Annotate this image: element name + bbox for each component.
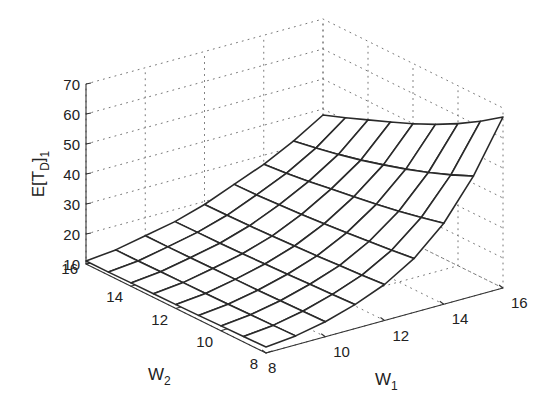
x-axis-label: W1	[375, 370, 398, 393]
y-axis-label: W2	[148, 365, 171, 388]
y-tick-label: 14	[106, 288, 123, 305]
surface-plot: 10203040506070810121416810121416 E[TD]1 …	[0, 0, 553, 407]
y-tick-label: 8	[250, 355, 258, 372]
x-tick-label: 14	[452, 310, 469, 327]
y-tick-label: 10	[196, 333, 213, 350]
z-tick-label: 40	[63, 166, 80, 183]
surface-mesh	[86, 115, 503, 347]
y-tick-label: 16	[61, 260, 78, 277]
z-tick-label: 60	[63, 106, 80, 123]
x-tick-label: 8	[268, 359, 276, 376]
x-tick-label: 10	[333, 343, 350, 360]
z-tick-label: 30	[63, 196, 80, 213]
z-tick-label: 70	[63, 76, 80, 93]
x-tick-label: 12	[393, 327, 410, 344]
x-tick-label: 16	[511, 294, 528, 311]
z-tick-label: 20	[63, 226, 80, 243]
z-tick-label: 50	[63, 136, 80, 153]
y-tick-label: 12	[151, 311, 168, 328]
z-axis-label: E[TD]1	[29, 150, 52, 197]
